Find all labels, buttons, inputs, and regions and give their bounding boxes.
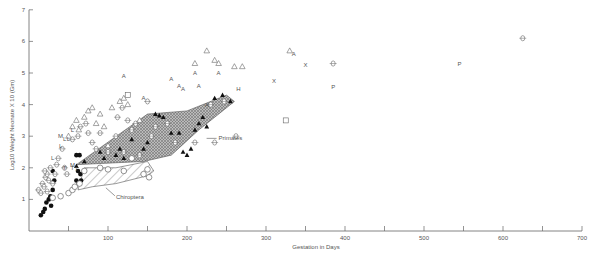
y-tick-label: 4 — [22, 102, 26, 108]
point-letter-A: A — [217, 70, 221, 76]
point-open-square — [283, 118, 288, 123]
point-letter-T: T — [63, 165, 67, 171]
chiroptera-leader — [106, 188, 115, 196]
point-open-triangle — [212, 57, 218, 62]
point-open-circle — [97, 165, 103, 171]
regions — [76, 95, 234, 190]
point-open-triangle — [74, 117, 80, 122]
y-axis-label-text: Log10 Weight Neonate X 10 (Gm) — [9, 80, 15, 171]
x-tick-label: 400 — [340, 235, 351, 241]
point-open-circle — [105, 167, 111, 173]
point-letter-P: P — [331, 84, 335, 90]
point-open-triangle — [109, 105, 115, 110]
point-letter-A: A — [142, 95, 146, 101]
x-tick-label: 300 — [261, 235, 272, 241]
point-filled-circle — [49, 203, 54, 208]
point-letter-M: M — [58, 133, 63, 139]
point-filled-circle — [43, 207, 48, 212]
point-open-square — [125, 93, 130, 98]
point-letter-H: H — [236, 86, 240, 92]
point-letter-A: A — [205, 102, 209, 108]
point-open-triangle — [93, 121, 99, 126]
point-open-triangle — [97, 111, 103, 116]
x-tick-label: 200 — [182, 235, 193, 241]
point-filled-triangle — [220, 93, 225, 97]
point-open-triangle — [89, 105, 95, 110]
y-tick-label: 6 — [22, 38, 26, 44]
point-open-circle — [146, 174, 152, 180]
point-filled-triangle — [181, 149, 186, 153]
point-letter-A: A — [122, 73, 126, 79]
y-tick-label: 5 — [22, 70, 26, 76]
point-letter-A: A — [169, 76, 173, 82]
x-tick-label: 500 — [419, 235, 430, 241]
y-tick-label: 3 — [22, 133, 26, 139]
point-open-circle — [77, 181, 83, 187]
point-open-triangle — [101, 124, 107, 129]
point-filled-triangle — [212, 96, 217, 100]
scatter-chart: 1002003004005006007001234567 AAAAAAAAAAX… — [0, 0, 612, 264]
y-tick-label: 2 — [22, 165, 26, 171]
annotation-chiroptera: Chiroptera — [116, 194, 145, 200]
x-tick-label: 700 — [577, 235, 588, 241]
point-letter-A: A — [181, 86, 185, 92]
y-tick-label: 1 — [22, 196, 26, 202]
point-letter-A: A — [292, 51, 296, 57]
point-open-triangle — [125, 102, 131, 107]
y-tick-label: 7 — [22, 7, 26, 13]
point-open-circle — [50, 195, 56, 201]
point-letter-T: T — [75, 166, 79, 172]
point-letter-A: A — [193, 70, 197, 76]
point-filled-circle — [50, 188, 55, 193]
point-open-circle — [141, 171, 147, 177]
point-open-triangle — [82, 114, 88, 119]
point-open-circle — [121, 168, 127, 174]
y-axis-label: Log10 Weight Neonate X 10 (Gm) — [2, 60, 22, 190]
point-letter-X: X — [272, 78, 276, 84]
point-open-triangle — [240, 64, 246, 69]
x-axis-label: Gestation in Days — [0, 244, 612, 250]
x-tick-label: 600 — [498, 235, 509, 241]
point-filled-triangle — [189, 146, 194, 150]
axes: 1002003004005006007001234567 — [22, 7, 588, 241]
chart-canvas: 1002003004005006007001234567 AAAAAAAAAAX… — [0, 0, 612, 264]
annotation-primates: Primates — [219, 135, 243, 141]
point-open-triangle — [192, 61, 198, 66]
point-open-triangle — [204, 48, 210, 53]
point-letter-X: X — [303, 62, 307, 68]
point-open-circle — [82, 168, 88, 174]
point-letter-P: P — [458, 61, 462, 67]
point-letter-L: L — [51, 155, 55, 161]
point-open-circle — [145, 167, 151, 173]
point-letter-A: A — [197, 83, 201, 89]
point-filled-triangle — [185, 153, 190, 157]
point-filled-circle — [77, 153, 82, 158]
point-open-circle — [129, 156, 135, 162]
point-open-triangle — [232, 64, 238, 69]
point-open-circle — [58, 193, 64, 199]
x-tick-label: 100 — [103, 235, 114, 241]
